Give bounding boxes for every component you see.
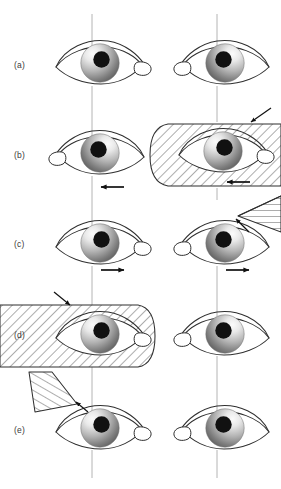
row-label-d: (d) — [14, 330, 25, 340]
row-label-a: (a) — [14, 60, 25, 70]
figure-canvas — [0, 0, 281, 489]
row-label-e: (e) — [14, 425, 25, 435]
cover-test-figure: (a) (b) (c) (d) (e) — [0, 0, 281, 489]
row-label-b: (b) — [14, 150, 25, 160]
row-label-c: (c) — [14, 239, 25, 249]
